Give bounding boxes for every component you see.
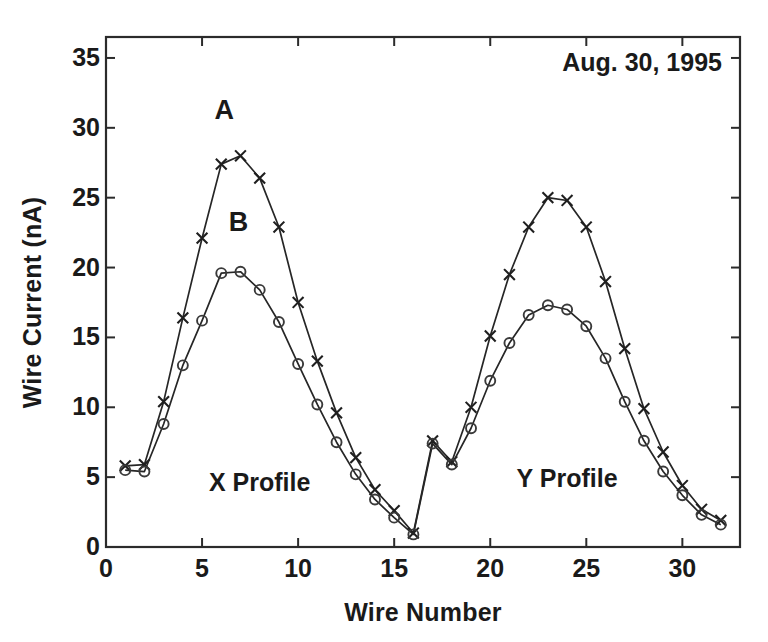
x-tick-label: 10 [273,556,323,581]
series-marker-A [331,407,342,418]
x-axis-title: Wire Number [105,598,741,627]
y-axis-tick-labels: 05101520253035 [44,0,100,560]
x-tick-label: 20 [465,556,515,581]
x-tick-label: 15 [369,556,419,581]
y-tick-label: 35 [54,45,100,70]
series-marker-A [216,159,227,170]
series-marker-A [312,356,323,367]
series-marker-A [523,222,534,233]
series-tag-B: B [229,207,249,237]
y-tick-label: 25 [54,185,100,210]
series-marker-A [504,269,515,280]
series-marker-A [235,150,246,161]
series-marker-A [254,173,265,184]
y-tick-label: 30 [54,115,100,140]
plot-frame [106,37,740,547]
x-axis-tick-labels: 051015202530 [0,556,768,596]
y-tick-label: 5 [54,464,100,489]
y-tick-label: 15 [54,324,100,349]
region-label-x: X Profile [209,468,311,496]
x-tick-label: 0 [81,556,131,581]
x-tick-label: 5 [177,556,227,581]
plot-area: Aug. 30, 1995ABX ProfileY Profile [0,0,768,642]
series-marker-A [639,403,650,414]
series-marker-A [658,447,669,458]
y-tick-label: 20 [54,255,100,280]
series-marker-A [274,222,285,233]
series-marker-A [350,452,361,463]
chart-figure: Wire Current (nA) Wire Number 0510152025… [0,0,768,642]
series-tag-A: A [214,95,234,125]
x-tick-label: 25 [561,556,611,581]
series-marker-A [293,297,304,308]
date-annotation: Aug. 30, 1995 [562,48,722,76]
y-tick-label: 10 [54,394,100,419]
series-marker-A [600,276,611,287]
x-tick-label: 30 [657,556,707,581]
series-marker-A [466,402,477,413]
series-marker-A [485,331,496,342]
series-marker-A [619,343,630,354]
region-label-y: Y Profile [517,464,618,492]
y-axis-title: Wire Current (nA) [18,153,47,453]
series-marker-A [197,233,208,244]
series-marker-A [581,222,592,233]
